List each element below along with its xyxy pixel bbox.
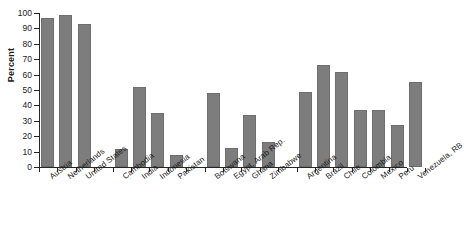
y-axis-tick bbox=[34, 105, 39, 106]
bar-slot bbox=[243, 13, 256, 167]
y-axis-tick bbox=[34, 13, 39, 14]
bar bbox=[317, 65, 330, 167]
x-axis-tick bbox=[205, 168, 206, 172]
bar-slot bbox=[59, 13, 72, 167]
y-axis-tick bbox=[34, 59, 39, 60]
bar bbox=[78, 24, 91, 167]
y-axis-tick-label: 30 bbox=[2, 117, 32, 126]
bar-slot bbox=[225, 13, 238, 167]
x-axis-tick bbox=[297, 168, 298, 172]
y-axis-tick-label: 100 bbox=[2, 9, 32, 18]
bar bbox=[41, 18, 54, 167]
bar bbox=[409, 82, 422, 167]
y-axis-tick-label: 40 bbox=[2, 101, 32, 110]
bar-slot bbox=[317, 13, 330, 167]
bar bbox=[335, 72, 348, 167]
bar-slot bbox=[41, 13, 54, 167]
bar-slot bbox=[372, 13, 385, 167]
bar-slot bbox=[391, 13, 404, 167]
x-axis-tick bbox=[39, 168, 40, 172]
y-axis-tick-label: 10 bbox=[2, 148, 32, 157]
bar-slot bbox=[354, 13, 367, 167]
bar-slot bbox=[151, 13, 164, 167]
y-axis-tick-label: 0 bbox=[2, 163, 32, 172]
bar-slot bbox=[409, 13, 422, 167]
x-axis-tick bbox=[113, 168, 114, 172]
y-axis-tick-label: 50 bbox=[2, 86, 32, 95]
y-axis-tick bbox=[34, 121, 39, 122]
bar bbox=[59, 15, 72, 167]
y-axis-tick-label: 80 bbox=[2, 40, 32, 49]
y-axis-tick-label: 60 bbox=[2, 71, 32, 80]
y-axis-tick bbox=[34, 75, 39, 76]
bar-slot bbox=[299, 13, 312, 167]
bar-slot bbox=[335, 13, 348, 167]
y-axis-tick-label: 70 bbox=[2, 55, 32, 64]
bar-slot bbox=[207, 13, 220, 167]
bar-slot bbox=[78, 13, 91, 167]
y-axis-tick bbox=[34, 90, 39, 91]
bar-slot bbox=[170, 13, 183, 167]
y-axis-tick bbox=[34, 28, 39, 29]
y-axis-tick bbox=[34, 136, 39, 137]
y-axis-tick-label: 90 bbox=[2, 24, 32, 33]
y-axis-tick bbox=[34, 152, 39, 153]
y-axis-tick bbox=[34, 44, 39, 45]
bar bbox=[207, 93, 220, 167]
bar-slot bbox=[133, 13, 146, 167]
x-axis-category-label: Venezuela, RB bbox=[416, 141, 464, 181]
y-axis-line bbox=[39, 13, 40, 168]
y-axis-tick-label: 20 bbox=[2, 132, 32, 141]
bar bbox=[354, 110, 367, 167]
